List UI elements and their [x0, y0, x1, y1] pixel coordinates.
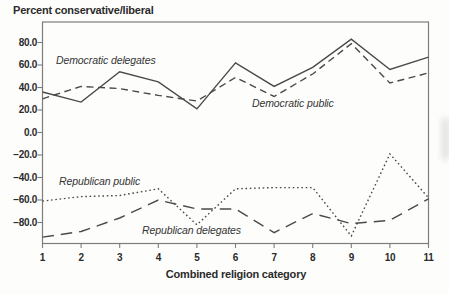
- x-tick-label: 1: [33, 253, 53, 263]
- chart-figure: Percent conservative/liberal Democratic …: [0, 0, 449, 294]
- series-label-republican-public: Republican public: [59, 175, 140, 187]
- x-tick-label: 6: [226, 253, 246, 263]
- x-tick-label: 8: [303, 253, 323, 263]
- y-tick-label: 80.0: [12, 38, 37, 48]
- scan-artifact: [442, 118, 449, 160]
- plot-svg: [0, 0, 449, 294]
- series-label-democratic-delegates: Democratic delegates: [56, 54, 156, 66]
- x-tick-label: 9: [341, 253, 361, 263]
- x-tick-label: 4: [148, 253, 168, 263]
- y-tick-label: −80.0: [12, 218, 37, 228]
- x-axis-title: Combined religion category: [43, 268, 429, 280]
- y-tick-label: 40.0: [12, 83, 37, 93]
- series-label-republican-delegates: Republican delegates: [142, 224, 241, 236]
- x-tick-label: 3: [110, 253, 130, 263]
- y-tick-label: 0.0: [12, 128, 37, 138]
- series-line-democratic-delegates: [43, 39, 429, 109]
- y-tick-label: 60.0: [12, 60, 37, 70]
- y-tick-label: −40.0: [12, 173, 37, 183]
- series-line-democratic-public: [43, 44, 429, 101]
- series-label-democratic-public: Democratic public: [252, 97, 334, 109]
- x-tick-label: 7: [264, 253, 284, 263]
- y-tick-label: 20.0: [12, 105, 37, 115]
- x-tick-label: 10: [380, 253, 400, 263]
- y-tick-label: −60.0: [12, 195, 37, 205]
- x-tick-label: 5: [187, 253, 207, 263]
- x-tick-label: 11: [419, 253, 439, 263]
- y-tick-label: −20.0: [12, 150, 37, 160]
- x-tick-label: 2: [71, 253, 91, 263]
